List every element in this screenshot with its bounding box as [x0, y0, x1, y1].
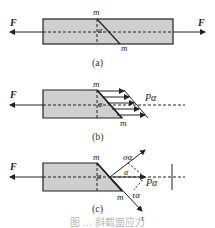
svg-text:Pα: Pα: [144, 92, 157, 103]
stress-diagram: m m α F F (a) m m α Pα F (b): [0, 0, 215, 228]
panel-a: m m α F F (a): [9, 7, 205, 69]
svg-text:α: α: [124, 168, 129, 177]
svg-text:m: m: [93, 7, 100, 17]
svg-text:σα: σα: [123, 152, 132, 162]
panel-c: m m α α σα τα τ Pα F (c): [9, 150, 185, 223]
svg-text:(a): (a): [92, 57, 103, 69]
svg-text:m: m: [93, 152, 100, 162]
panel-b: m m α Pα F (b): [9, 79, 185, 143]
svg-text:m: m: [117, 192, 124, 202]
svg-text:F: F: [9, 161, 17, 172]
svg-text:(b): (b): [92, 131, 104, 143]
svg-text:m: m: [121, 43, 128, 53]
svg-text:F: F: [9, 89, 17, 100]
svg-text:m: m: [120, 118, 127, 128]
svg-text:τα: τα: [132, 190, 140, 200]
svg-text:(c): (c): [92, 203, 103, 215]
svg-text:F: F: [9, 17, 17, 28]
svg-text:Pα: Pα: [145, 177, 158, 188]
svg-text:m: m: [93, 79, 100, 89]
svg-text:F: F: [197, 17, 205, 28]
figure-caption: 图 … 斜截面应力: [70, 216, 145, 228]
